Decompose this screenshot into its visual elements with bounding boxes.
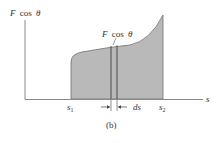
figure-caption: (b) xyxy=(106,120,117,130)
ds-arrow-left-head xyxy=(107,105,111,108)
curve-label-leader xyxy=(113,38,116,45)
ds-arrow-right-head xyxy=(118,105,122,108)
ds-label: ds xyxy=(133,102,142,112)
work-diagram: F cos θ F cos θ s s1 s2 ds (b) xyxy=(0,0,222,143)
tick-label-s1: s1 xyxy=(67,102,74,113)
tick-label-s2: s2 xyxy=(159,102,166,113)
y-axis-label: F cos θ xyxy=(9,8,41,18)
x-axis-label: s xyxy=(206,94,210,104)
curve-label: F cos θ xyxy=(101,29,133,39)
